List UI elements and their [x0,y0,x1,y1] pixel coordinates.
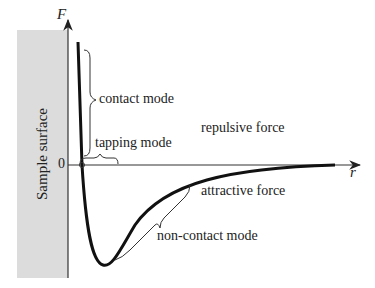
non-contact-mode-brace [115,185,190,260]
attractive-force-label: attractive force [201,183,285,199]
f-axis-label: F [57,6,66,23]
origin-label: 0 [58,156,65,172]
r-axis-label: r [350,164,356,181]
tapping-mode-label: tapping mode [95,135,172,151]
non-contact-mode-label: non-contact mode [157,228,258,244]
force-curve-diagram [0,0,375,288]
contact-mode-label: contact mode [99,91,174,107]
repulsive-force-label: repulsive force [201,120,285,136]
